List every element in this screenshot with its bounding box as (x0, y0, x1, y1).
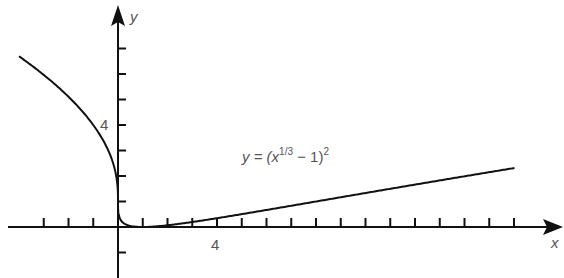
x-axis-label: x (550, 234, 559, 251)
function-graph: x y 4 4 y = (x1/3 − 1)2 (0, 0, 564, 278)
x-ticks (44, 218, 514, 227)
x-tick-label-4: 4 (211, 236, 219, 253)
y-axis-label: y (129, 8, 139, 25)
function-curve (19, 56, 515, 227)
equation-label: y = (x1/3 − 1)2 (241, 146, 329, 165)
y-tick-label-4: 4 (100, 116, 108, 133)
